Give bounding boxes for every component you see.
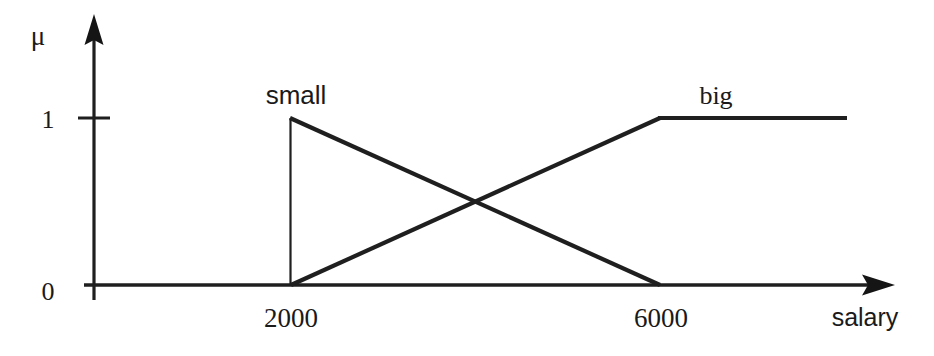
- x-tick-label-2000: 2000: [264, 303, 318, 333]
- big-curve-label: big: [699, 81, 732, 110]
- y-tick-label-1: 1: [42, 105, 55, 134]
- x-axis-label: salary: [832, 303, 899, 331]
- y-tick-label-0: 0: [42, 277, 55, 306]
- x-tick-label-6000: 6000: [634, 303, 688, 333]
- membership-function-chart: μ 1 0 salary 2000 6000 small big: [0, 0, 934, 356]
- small-curve-label: small: [266, 80, 327, 110]
- fuzzy-membership-figure: μ 1 0 salary 2000 6000 small big: [0, 0, 934, 356]
- y-axis-symbol: μ: [31, 21, 45, 51]
